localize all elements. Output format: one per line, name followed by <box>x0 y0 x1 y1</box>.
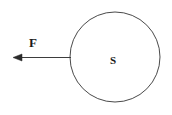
force-diagram-figure: F S <box>0 0 172 115</box>
force-label: F <box>29 35 37 50</box>
sphere-label: S <box>110 54 116 66</box>
diagram-canvas: F S <box>0 0 172 115</box>
